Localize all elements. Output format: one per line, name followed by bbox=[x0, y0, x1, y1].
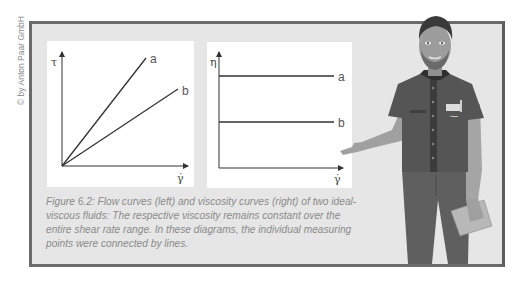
head bbox=[419, 16, 452, 70]
pointing-arm bbox=[340, 112, 410, 155]
pen-icon bbox=[460, 100, 462, 112]
name-badge bbox=[446, 104, 460, 111]
presenter-illustration: ●▬▬ bbox=[0, 0, 523, 283]
svg-text:●▬▬: ●▬▬ bbox=[450, 114, 458, 118]
